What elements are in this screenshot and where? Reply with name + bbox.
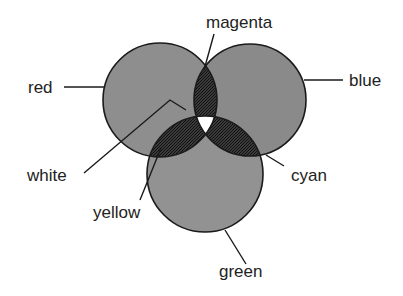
label-blue: blue	[349, 71, 381, 90]
label-magenta: magenta	[206, 13, 273, 32]
green-leader	[225, 230, 246, 264]
label-yellow: yellow	[93, 203, 141, 222]
label-cyan: cyan	[291, 166, 327, 185]
label-green: green	[219, 262, 262, 281]
label-white: white	[26, 166, 67, 185]
label-red: red	[28, 78, 53, 97]
color-venn-diagram: magenta red blue white cyan yellow green	[0, 0, 403, 296]
cyan-leader	[266, 155, 284, 166]
